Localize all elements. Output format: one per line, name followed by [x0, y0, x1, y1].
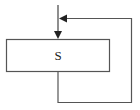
arrow-down-icon [54, 31, 62, 39]
loop-diagram: S [0, 0, 140, 110]
process-box-label: S [54, 48, 61, 63]
arrow-left-icon [59, 15, 67, 23]
